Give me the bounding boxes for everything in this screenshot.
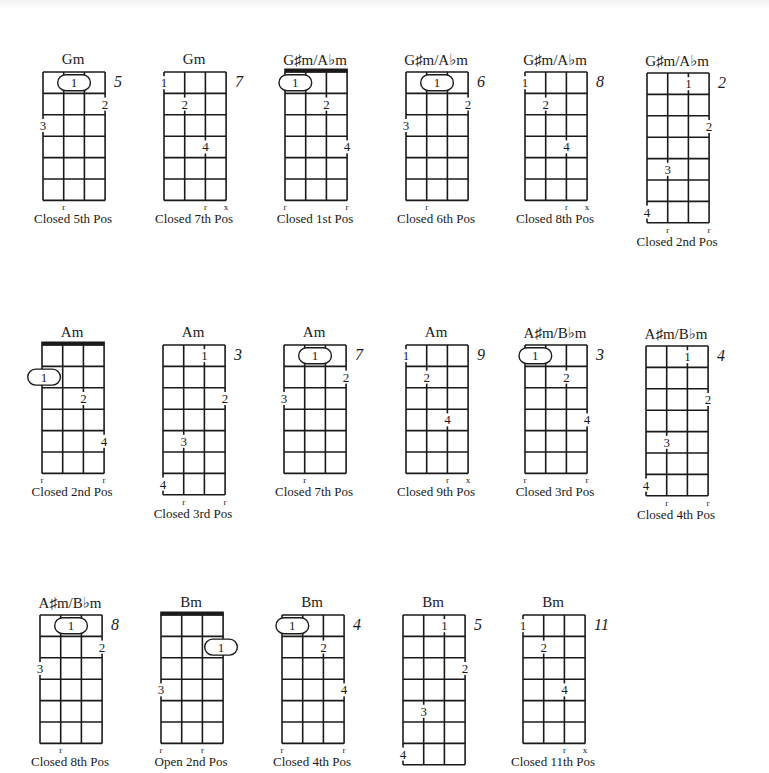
fretboard-grid: 123r [39,614,103,756]
start-fret-number: 2 [718,74,726,92]
chord-diagram: Gm123r5Closed 5th Pos [42,71,104,199]
start-fret-number: 11 [594,616,609,634]
finger-number: 2 [705,392,712,407]
chord-diagram: Am124rx9Closed 9th Pos [405,344,467,472]
chord-name: G♯m/A♭m [494,51,616,69]
chord-diagram: Bm13rrOpen 2nd Pos [160,614,222,742]
start-fret-number: 4 [717,347,725,365]
position-label: Closed 4th Pos [241,754,383,770]
finger-number: 4 [643,478,650,493]
barre-finger-number: 1 [41,370,48,385]
chord-name: A♯m/B♭m [494,324,616,342]
start-fret-number: 4 [353,616,361,634]
chord-diagram: A♯m/B♭m124rr3Closed 3rd Pos [524,344,586,472]
chord-diagram: Am1234rr3Closed 3rd Pos [162,344,224,494]
position-label: Closed 2nd Pos [1,484,143,500]
fretboard-grid: 124rr [524,344,588,486]
chord-name: Bm [372,594,494,611]
start-fret-number: 3 [596,346,604,364]
fretboard-grid: 124rx [163,71,227,213]
finger-number: 1 [520,618,527,633]
fretboard-grid: 124rr [41,344,105,486]
finger-number: 4 [644,205,651,220]
chord-diagram: Bm124rr4Closed 4th Pos [281,614,343,742]
chord-name: A♯m/B♭m [615,325,737,343]
finger-number: 2 [181,97,188,112]
barre-finger-number: 1 [71,75,78,90]
finger-number: 1 [684,349,691,364]
finger-number: 2 [99,640,105,655]
finger-number: 4 [444,412,451,427]
start-fret-number: 7 [235,73,243,91]
finger-number: 4 [160,477,167,492]
finger-number: 4 [202,139,209,154]
fretboard-grid: 124rx [524,71,588,213]
barre-finger-number: 1 [218,640,225,655]
finger-number: 2 [423,370,430,385]
position-label: Closed 11th Pos [482,754,624,770]
finger-number: 2 [540,640,547,655]
finger-number: 4 [341,682,348,697]
finger-number: 2 [343,370,350,385]
chord-name: Bm [130,594,252,611]
finger-number: 3 [663,435,670,450]
finger-number: 2 [563,370,570,385]
chord-name: G♯m/A♭m [616,52,738,70]
fretboard-grid: 123r [283,344,347,486]
barre-finger-number: 1 [532,348,539,363]
finger-number: 4 [563,139,570,154]
finger-number: 2 [706,119,713,134]
start-fret-number: 8 [111,616,119,634]
finger-number: 4 [584,412,591,427]
finger-number: 3 [180,434,187,449]
fretboard-grid: 13rr [160,614,224,756]
chord-name: Am [375,324,497,341]
finger-number: 2 [102,97,108,112]
finger-number: 4 [561,682,568,697]
chord-diagram: Bm12345 [402,614,464,764]
position-label: Closed 4th Pos [605,507,747,523]
fretboard-grid: 123r [42,71,106,213]
position-label: Closed 8th Pos [484,211,626,227]
position-label: Closed 3rd Pos [122,506,264,522]
start-fret-number: 5 [474,616,482,634]
finger-number: 3 [281,391,288,406]
start-fret-number: 3 [234,346,242,364]
finger-number: 1 [161,75,168,90]
barre-finger-number: 1 [289,618,296,633]
finger-number: 1 [441,618,448,633]
chord-name: G♯m/A♭m [254,51,376,69]
chord-diagram: Am123r7Closed 7th Pos [283,344,345,472]
chord-diagram: Am124rrClosed 2nd Pos [41,344,103,472]
fretboard-grid: 124rx [405,344,469,486]
chord-diagram: Gm124rx7Closed 7th Pos [163,71,225,199]
finger-number: 4 [101,434,108,449]
position-label: Closed 3rd Pos [484,484,626,500]
start-fret-number: 9 [477,346,485,364]
chord-name: Am [253,324,375,341]
chord-name: Am [11,324,133,341]
finger-number: 1 [685,76,692,91]
finger-number: 3 [664,162,671,177]
chord-name: Gm [12,51,134,68]
chord-name: Am [132,324,254,341]
fretboard-grid: 123r [405,71,469,213]
finger-number: 3 [40,118,47,133]
finger-number: 2 [222,391,228,406]
start-fret-number: 8 [596,73,604,91]
chord-diagram: A♯m/B♭m123r8Closed 8th Pos [39,614,101,742]
finger-number: 2 [462,661,469,676]
chord-diagram: A♯m/B♭m1234rr4Closed 4th Pos [645,345,707,495]
fretboard-grid: 1234rr [646,72,710,236]
finger-number: 2 [320,640,327,655]
fretboard-grid: 1234rr [162,344,226,508]
finger-number: 4 [344,139,351,154]
finger-number: 3 [420,704,427,719]
finger-number: 1 [522,75,529,90]
fretboard-grid: 1234rr [645,345,709,509]
fretboard-grid: 124rx [522,614,586,756]
fretboard-grid: 1234 [402,614,466,773]
fretboard-grid: 124rr [284,71,348,213]
finger-number: 2 [80,391,86,406]
finger-number: 1 [201,348,208,363]
